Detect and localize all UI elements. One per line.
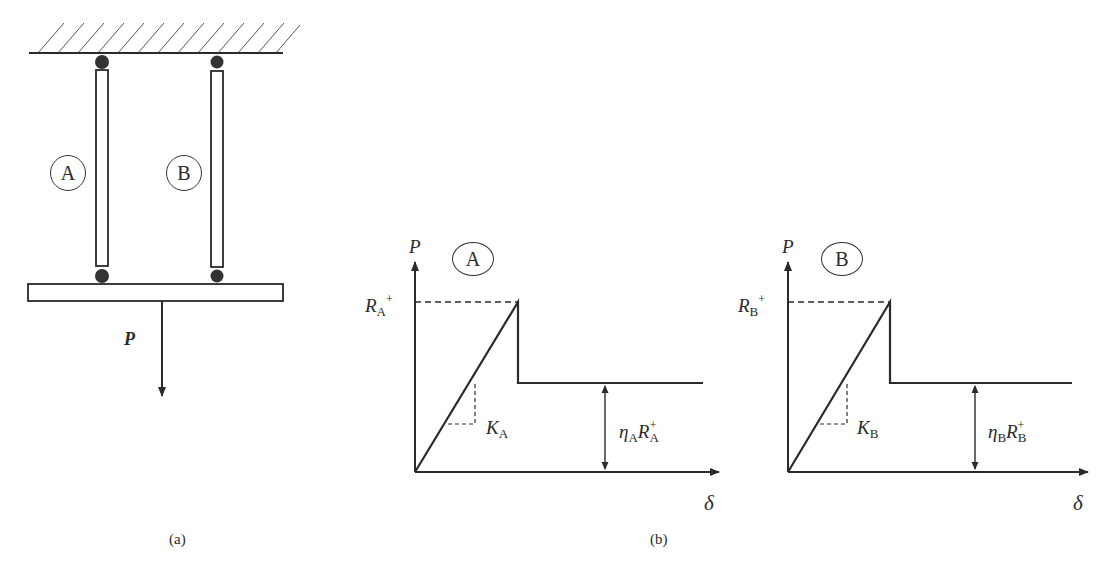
figure-canvas — [0, 0, 1107, 569]
caption-b: (b) — [650, 532, 668, 547]
top-hinge-b — [211, 56, 224, 69]
chart-b-stiffness-triangle — [820, 383, 847, 424]
chart-b-panel-label: B — [821, 242, 863, 276]
chart-a-y-axis-label: P — [409, 237, 421, 256]
chart-a-residual-label: ηARA+ — [619, 422, 657, 441]
residual-label-sub: A — [649, 430, 658, 445]
fixed-support-hatch — [38, 23, 300, 53]
caption-a: (a) — [169, 532, 186, 547]
load-label: P — [124, 330, 135, 348]
stiffness-label-sub: A — [499, 426, 508, 441]
bar-b — [211, 71, 223, 267]
stiffness-label-sub: B — [870, 426, 879, 441]
bottom-hinge-b — [211, 270, 224, 283]
structure-diagram — [28, 23, 300, 396]
residual-eta-sub: A — [628, 430, 637, 445]
bottom-hinge-a — [95, 269, 109, 283]
peak-label-sub: A — [377, 304, 386, 319]
chart-a-panel-label-text: A — [466, 248, 480, 271]
rigid-plate — [28, 284, 283, 301]
chart-a-peak-label: RA+ — [365, 296, 393, 315]
chart-b-y-axis-label: P — [782, 237, 794, 256]
stiffness-label-base: K — [857, 417, 870, 438]
chart-a-curve — [415, 302, 703, 472]
top-hinge-a — [95, 55, 109, 69]
chart-a-stiffness-triangle — [448, 383, 475, 424]
bar-b-label: B — [166, 155, 202, 191]
bar-a-label-text: A — [61, 162, 75, 185]
peak-label-sup: + — [758, 292, 765, 306]
chart-b-stiffness-label: KB — [857, 418, 878, 437]
chart-b-curve — [788, 302, 1072, 472]
residual-label-base: R — [1006, 421, 1018, 442]
residual-label-base: R — [638, 421, 650, 442]
chart-a-panel-label: A — [452, 242, 494, 276]
bar-a — [96, 70, 108, 266]
bar-b-label-text: B — [177, 162, 190, 185]
peak-label-sub: B — [750, 304, 759, 319]
chart-b — [788, 262, 1088, 472]
chart-b-panel-label-text: B — [835, 248, 848, 271]
peak-label-base: R — [738, 295, 750, 316]
chart-a — [415, 262, 719, 472]
stiffness-label-base: K — [486, 417, 499, 438]
peak-label-base: R — [365, 295, 377, 316]
bar-a-label: A — [50, 155, 86, 191]
chart-b-peak-label: RB+ — [738, 296, 765, 315]
chart-a-x-axis-label: δ — [704, 493, 714, 514]
chart-a-stiffness-label: KA — [486, 418, 508, 437]
residual-eta-sub: B — [997, 430, 1006, 445]
residual-label-sup: + — [1017, 418, 1024, 432]
residual-label-sup: + — [650, 418, 657, 432]
chart-b-x-axis-label: δ — [1073, 493, 1083, 514]
residual-label-sub: B — [1018, 430, 1027, 445]
peak-label-sup: + — [386, 292, 393, 306]
chart-b-residual-label: ηBRB+ — [988, 422, 1024, 441]
